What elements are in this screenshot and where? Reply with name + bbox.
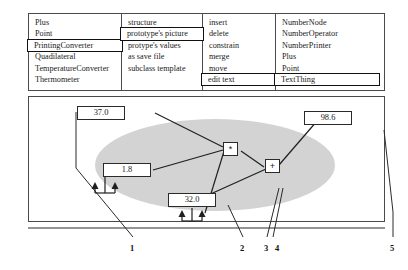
menu-item-numbernode[interactable]: NumberNode [276, 17, 384, 28]
menu-item-textthing[interactable]: TextThing [275, 74, 379, 85]
menu-item-prototypes-picture[interactable]: prototype's picture [121, 28, 203, 39]
wire-37-to-multiply [155, 113, 223, 147]
node-1-8[interactable]: 1.8 [103, 163, 151, 177]
wire-multiply-to-plus [241, 151, 264, 167]
node-multiply[interactable]: * [223, 142, 238, 156]
node-37[interactable]: 37.0 [77, 106, 125, 120]
menu-item-temperatureconverter[interactable]: TemperatureConverter [29, 63, 121, 74]
menu-item-plus[interactable]: Plus [29, 17, 121, 28]
menu-column-class-list: Plus Point PrintingConverter Quadilatera… [29, 14, 122, 90]
callout-label-2: 2 [240, 243, 244, 253]
menu-item-merge[interactable]: merge [203, 51, 275, 62]
constraint-arrow-1-8 [92, 177, 119, 193]
node-98-6[interactable]: 98.6 [304, 111, 352, 125]
menu-item-point-type[interactable]: Point [276, 63, 384, 74]
wire-plus-to-98-6 [279, 121, 317, 165]
node-plus[interactable]: + [265, 159, 280, 173]
wire-1-8-to-multiply [153, 150, 223, 170]
screenshot-root: Plus Point PrintingConverter Quadilatera… [0, 0, 408, 270]
menu-item-quadilateral[interactable]: Quadilateral [29, 51, 121, 62]
callout-label-5: 5 [390, 243, 394, 253]
menu-item-edit-text[interactable]: edit text [202, 74, 276, 85]
menu-item-move[interactable]: move [203, 63, 275, 74]
menu-item-insert[interactable]: insert [203, 17, 275, 28]
callout-label-4: 4 [275, 243, 279, 253]
menu-item-constrain[interactable]: constrain [203, 40, 275, 51]
constraint-arrow-32 [179, 208, 206, 221]
menu-column-action-list: insert delete constrain merge move edit … [203, 14, 276, 90]
menu-item-thermometer[interactable]: Thermometer [29, 74, 121, 85]
diagram-canvas[interactable]: 37.0 1.8 * 32.0 + 98.6 [28, 96, 385, 222]
menu-item-as-save-file[interactable]: as save file [122, 51, 202, 62]
menu-item-delete[interactable]: delete [203, 28, 275, 39]
callout-label-3: 3 [264, 243, 268, 253]
menu-item-plus-type[interactable]: Plus [276, 51, 384, 62]
callout-label-1: 1 [130, 243, 134, 253]
menu-bar: Plus Point PrintingConverter Quadilatera… [28, 13, 385, 91]
menu-item-structure[interactable]: structure [122, 17, 202, 28]
menu-item-numberoperator[interactable]: NumberOperator [276, 28, 384, 39]
menu-column-type-list: NumberNode NumberOperator NumberPrinter … [276, 14, 384, 90]
menu-item-numberprinter[interactable]: NumberPrinter [276, 40, 384, 51]
menu-item-point[interactable]: Point [29, 28, 121, 39]
menu-item-subclass-template[interactable]: subclass template [122, 63, 202, 74]
menu-item-protypes-values[interactable]: protype's values [122, 40, 202, 51]
menu-column-view-list: structure prototype's picture protype's … [122, 14, 203, 90]
menu-item-printingconverter[interactable]: PrintingConverter [28, 40, 122, 51]
node-32[interactable]: 32.0 [168, 193, 216, 207]
